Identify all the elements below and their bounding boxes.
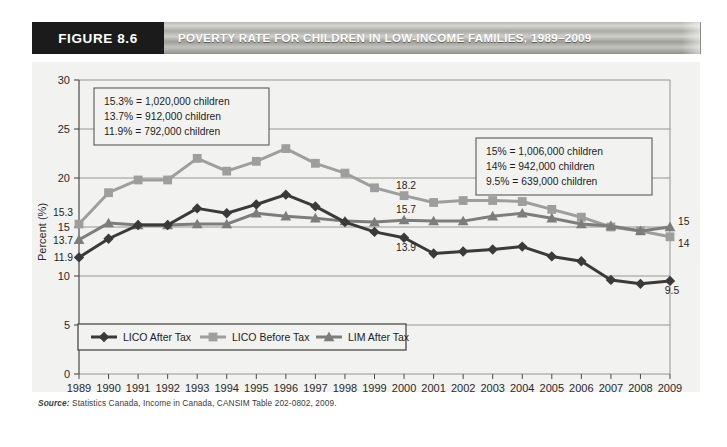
y-tick-label: 0 bbox=[64, 368, 70, 380]
y-tick-label: 25 bbox=[58, 123, 70, 135]
annotation-box-left: 15.3% = 1,020,000 children13.7% = 912,00… bbox=[94, 88, 269, 145]
data-point-marker bbox=[163, 176, 172, 185]
data-point-marker bbox=[547, 205, 556, 214]
data-point-label: 15 bbox=[678, 216, 690, 227]
x-tick-label: 1989 bbox=[67, 382, 91, 392]
x-tick-label: 2009 bbox=[658, 382, 682, 392]
annotation-line: 15% = 1,006,000 children bbox=[486, 146, 603, 157]
y-tick-label: 30 bbox=[58, 74, 70, 86]
data-point-marker bbox=[370, 183, 379, 192]
x-tick-label: 1999 bbox=[362, 382, 386, 392]
data-point-marker bbox=[429, 198, 438, 207]
source-prefix: Source: bbox=[38, 398, 70, 408]
data-point-marker bbox=[104, 188, 113, 197]
data-point-label: 13.7 bbox=[53, 235, 73, 246]
annotation-line: 14% = 942,000 children bbox=[486, 161, 595, 172]
legend-label: LICO After Tax bbox=[123, 331, 192, 343]
data-point-label: 11.9 bbox=[54, 252, 74, 263]
legend-label: LICO Before Tax bbox=[232, 331, 310, 343]
data-point-label: 15.3 bbox=[53, 207, 73, 218]
data-point-label: 9.5 bbox=[665, 285, 680, 296]
chart-plot-area: 051015202530 198919901991199219931994199… bbox=[32, 62, 700, 392]
x-tick-label: 2008 bbox=[628, 382, 652, 392]
y-tick-label: 15 bbox=[58, 221, 70, 233]
y-axis-title: Percent (%) bbox=[36, 203, 48, 261]
x-tick-label: 2007 bbox=[599, 382, 623, 392]
data-point-marker bbox=[209, 333, 218, 342]
data-point-marker bbox=[281, 144, 290, 153]
x-tick-label: 2003 bbox=[480, 382, 504, 392]
figure-title: POVERTY RATE FOR CHILDREN IN LOW-INCOME … bbox=[178, 22, 592, 54]
chart-legend[interactable]: LICO After TaxLICO Before TaxLIM After T… bbox=[78, 324, 410, 350]
x-tick-label: 2004 bbox=[510, 382, 534, 392]
data-point-marker bbox=[488, 196, 497, 205]
annotation-line: 13.7% = 912,000 children bbox=[104, 111, 221, 122]
figure-header: FIGURE 8.6 POVERTY RATE FOR CHILDREN IN … bbox=[32, 22, 700, 54]
data-point-marker bbox=[252, 157, 261, 166]
data-point-label: 13.9 bbox=[396, 242, 416, 253]
data-point-marker bbox=[518, 197, 527, 206]
x-tick-label: 1992 bbox=[155, 382, 179, 392]
annotation-line: 11.9% = 792,000 children bbox=[104, 126, 221, 137]
figure-number-label: FIGURE 8.6 bbox=[58, 31, 138, 46]
figure-root: FIGURE 8.6 POVERTY RATE FOR CHILDREN IN … bbox=[0, 0, 727, 447]
x-tick-label: 1994 bbox=[215, 382, 239, 392]
data-point-marker bbox=[341, 169, 350, 178]
x-tick-label: 2005 bbox=[540, 382, 564, 392]
annotation-line: 9.5% = 639,000 children bbox=[486, 176, 598, 187]
data-point-label: 18.2 bbox=[396, 180, 416, 191]
data-point-marker bbox=[193, 154, 202, 163]
data-point-marker bbox=[134, 176, 143, 185]
x-tick-label: 1997 bbox=[303, 382, 327, 392]
x-tick-label: 1990 bbox=[96, 382, 120, 392]
y-tick-label: 5 bbox=[64, 319, 70, 331]
data-point-marker bbox=[400, 191, 409, 200]
y-tick-label: 10 bbox=[58, 270, 70, 282]
data-point-marker bbox=[311, 159, 320, 168]
x-tick-label: 1991 bbox=[126, 382, 150, 392]
source-text: Statistics Canada, Income in Canada, CAN… bbox=[70, 398, 337, 408]
x-tick-label: 1995 bbox=[244, 382, 268, 392]
data-point-label: 14 bbox=[678, 238, 690, 249]
poverty-rate-line-chart: 051015202530 198919901991199219931994199… bbox=[32, 62, 700, 392]
x-tick-label: 1993 bbox=[185, 382, 209, 392]
x-tick-label: 2001 bbox=[421, 382, 445, 392]
data-point-marker bbox=[459, 196, 468, 205]
data-point-marker bbox=[222, 167, 231, 176]
x-tick-label: 1996 bbox=[274, 382, 298, 392]
annotation-box-right: 15% = 1,006,000 children14% = 942,000 ch… bbox=[476, 138, 652, 195]
legend-label: LIM After Tax bbox=[348, 331, 410, 343]
x-tick-label: 2000 bbox=[392, 382, 416, 392]
x-tick-label: 2002 bbox=[451, 382, 475, 392]
annotation-line: 15.3% = 1,020,000 children bbox=[104, 96, 230, 107]
y-tick-label: 20 bbox=[58, 172, 70, 184]
data-point-marker bbox=[666, 232, 675, 241]
x-tick-label: 2006 bbox=[569, 382, 593, 392]
source-note: Source: Statistics Canada, Income in Can… bbox=[38, 398, 337, 408]
x-tick-label: 1998 bbox=[333, 382, 357, 392]
data-point-marker bbox=[75, 220, 84, 229]
data-point-label: 15.7 bbox=[396, 204, 416, 215]
figure-number-block: FIGURE 8.6 bbox=[32, 22, 164, 54]
legend-item-lico-before-tax[interactable]: LICO Before Tax bbox=[200, 331, 310, 343]
